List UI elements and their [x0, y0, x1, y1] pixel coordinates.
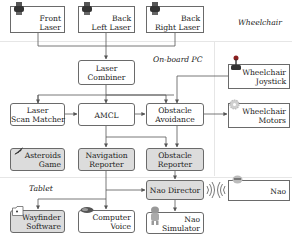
- node-label: Wheelchair Motors: [242, 107, 286, 125]
- node-label: Computer Voice: [92, 213, 131, 231]
- node-label: AMCL: [79, 111, 134, 120]
- node-obstacle-avoidance: Obstacle Avoidance: [146, 103, 204, 126]
- gear-icon: [229, 99, 240, 110]
- speaker-icon: [80, 206, 94, 214]
- node-label: Wayfinder Software: [22, 213, 61, 231]
- node-label: Asteroids Game: [25, 151, 61, 169]
- joystick-icon: [230, 55, 242, 71]
- node-label: Front Laser: [39, 14, 61, 32]
- node-navigation-reporter: Navigation Reporter: [78, 148, 135, 171]
- node-nao-director: Nao Director: [146, 180, 204, 200]
- node-laser-scan-matcher: Laser Scan Matcher: [10, 103, 65, 126]
- node-label: Nao: [270, 187, 286, 196]
- node-label: Navigation Reporter: [79, 151, 134, 169]
- node-label: Laser Scan Matcher: [11, 106, 64, 124]
- node-amcl: AMCL: [78, 103, 135, 126]
- spaceship-icon: [13, 146, 25, 156]
- node-label: Obstacle Avoidance: [147, 106, 203, 124]
- node-label: Obstacle Reporter: [147, 151, 203, 169]
- node-label: Laser Combiner: [79, 64, 134, 82]
- folder-icon: [12, 206, 24, 216]
- laser-sensor-icon: [149, 2, 161, 16]
- node-label: Back Left Laser: [92, 14, 131, 32]
- node-label: Wheelchair Joystick: [242, 68, 286, 86]
- node-label: Back Right Laser: [155, 14, 200, 32]
- laser-sensor-icon: [81, 2, 93, 16]
- node-label: Nao Simulator: [162, 215, 200, 233]
- laser-sensor-icon: [13, 2, 25, 16]
- node-obstacle-reporter: Obstacle Reporter: [146, 148, 204, 171]
- robot-figure-icon: [149, 206, 161, 226]
- wireless-icon: [207, 182, 225, 198]
- robot-head-icon: [232, 175, 243, 184]
- node-label: Nao Director: [147, 186, 203, 195]
- node-laser-combiner: Laser Combiner: [78, 60, 135, 85]
